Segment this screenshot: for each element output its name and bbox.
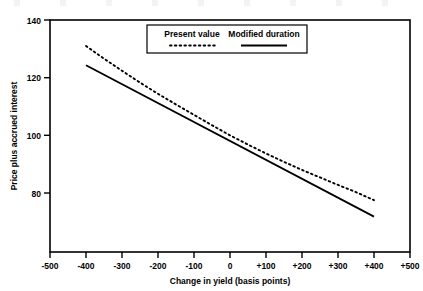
y-tick-label-2: 100 — [27, 131, 41, 141]
y-axis-ticks — [44, 20, 50, 193]
price-yield-chart: 140 120 100 80 Price plus accrued intere… — [0, 0, 423, 291]
x-tick-label-8: +300 — [328, 261, 347, 271]
x-tick-label-3: -200 — [149, 261, 166, 271]
x-tick-label-6: +100 — [256, 261, 275, 271]
x-tick-label-0: -500 — [41, 261, 58, 271]
y-tick-label-0: 140 — [27, 16, 41, 26]
y-axis-title: Price plus accrued interest — [9, 82, 19, 191]
x-tick-label-2: -300 — [113, 261, 130, 271]
chart-legend: Present value Modified duration — [147, 25, 307, 53]
legend-label-modified-duration: Modified duration — [228, 29, 299, 39]
chart-svg: 140 120 100 80 Price plus accrued intere… — [0, 0, 423, 291]
x-tick-label-5: 0 — [228, 261, 233, 271]
y-tick-label-1: 120 — [27, 73, 41, 83]
x-tick-label-10: +500 — [400, 261, 419, 271]
x-tick-label-9: +400 — [364, 261, 383, 271]
x-tick-label-4: -100 — [185, 261, 202, 271]
legend-label-present-value: Present value — [164, 29, 220, 39]
x-axis-ticks — [50, 252, 410, 258]
x-axis-title: Change in yield (basis points) — [170, 276, 291, 286]
x-tick-label-1: -400 — [77, 261, 94, 271]
y-tick-label-3: 80 — [32, 189, 42, 199]
x-tick-label-7: +200 — [292, 261, 311, 271]
